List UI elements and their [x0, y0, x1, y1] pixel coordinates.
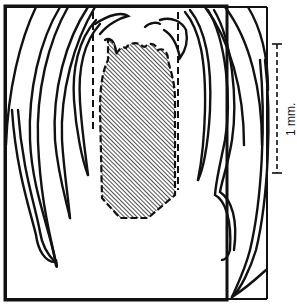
diagram-canvas [0, 0, 297, 305]
left-leaf-outlines [6, 7, 100, 267]
scale-bar [272, 44, 282, 173]
figure: 1 mm. [0, 0, 297, 305]
hatched-central-region [100, 40, 175, 218]
scale-bar-label: 1 mm. [284, 103, 297, 136]
